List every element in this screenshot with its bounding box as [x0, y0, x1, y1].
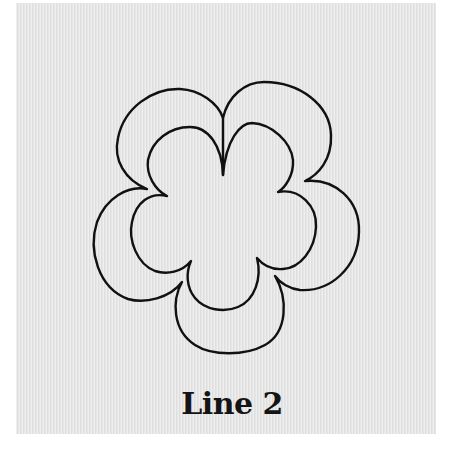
figure-caption: Line 2	[0, 386, 464, 421]
